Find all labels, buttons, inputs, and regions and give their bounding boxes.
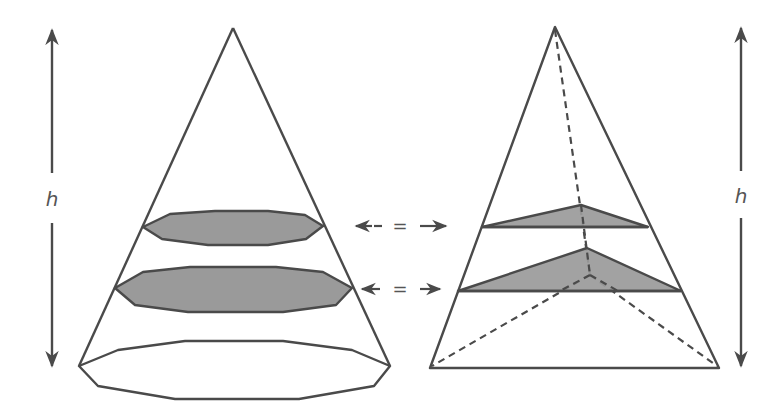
left-height-label: h (46, 187, 59, 211)
cone-left-edge (79, 28, 233, 366)
left-height-indicator: h (46, 30, 59, 366)
cone (79, 28, 390, 399)
comparison-marker-lower: = (362, 278, 440, 299)
cone-right-edge (233, 28, 390, 366)
cone-base (79, 341, 390, 399)
cone-cross-section-upper (143, 211, 323, 245)
equals-sign-lower: = (392, 278, 407, 299)
right-height-label: h (735, 184, 748, 208)
pyramid-hidden-edges (432, 30, 717, 366)
pyramid (430, 27, 719, 368)
right-height-indicator: h (735, 28, 748, 366)
pyramid-cross-section-upper (482, 205, 648, 227)
pyramid-outline (430, 27, 719, 368)
diagram-svg: h h = = (0, 0, 783, 412)
comparison-marker-upper: = (356, 215, 446, 236)
pyramid-cross-section-lower (458, 248, 681, 291)
equals-sign-upper: = (392, 215, 407, 236)
cavalieri-diagram: h h = = (0, 0, 783, 412)
cone-cross-section-lower (115, 267, 352, 312)
